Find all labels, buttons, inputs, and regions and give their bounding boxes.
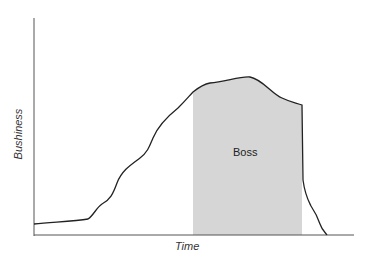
x-axis-label: Time <box>175 240 199 252</box>
y-axis-label: Bushiness <box>12 104 24 164</box>
boss-region-label: Boss <box>233 146 257 158</box>
chart <box>0 0 368 267</box>
